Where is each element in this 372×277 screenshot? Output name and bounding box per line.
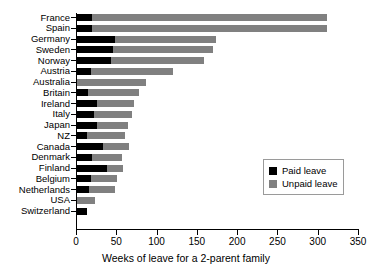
legend-item-paid-leave: Paid leave	[269, 164, 337, 177]
y-axis-tick	[71, 125, 76, 126]
bar-segment-paid	[76, 175, 91, 182]
bar-segment-paid	[76, 100, 97, 107]
bar-segment-unpaid	[97, 100, 134, 107]
y-axis-tick	[71, 92, 76, 93]
x-axis-tick-label: 150	[177, 236, 217, 248]
bar-row	[76, 25, 358, 32]
x-axis-line	[76, 229, 359, 230]
plot-area	[76, 13, 358, 229]
y-axis-tick	[71, 178, 76, 179]
bar-row	[76, 46, 358, 53]
bar-row	[76, 57, 358, 64]
y-axis-label: NZ	[0, 131, 70, 142]
y-axis-tick	[71, 146, 76, 147]
bar-segment-paid	[76, 165, 107, 172]
bar-row	[76, 100, 358, 107]
bar-segment-paid	[76, 57, 111, 64]
bar-segment-unpaid	[111, 57, 204, 64]
legend-item-unpaid-leave: Unpaid leave	[269, 177, 337, 190]
bar-segment-paid	[76, 143, 103, 150]
bar-segment-unpaid	[76, 197, 95, 204]
bar-segment-paid	[76, 46, 113, 53]
bar-row	[76, 36, 358, 43]
bar-segment-unpaid	[89, 186, 116, 193]
bar-segment-paid	[76, 186, 89, 193]
y-axis-tick	[71, 211, 76, 212]
bar-segment-unpaid	[115, 36, 217, 43]
y-axis-tick	[71, 189, 76, 190]
bar-segment-unpaid	[92, 25, 326, 32]
bar-segment-paid	[76, 111, 94, 118]
bar-segment-unpaid	[107, 165, 123, 172]
y-axis-tick	[71, 103, 76, 104]
bar-segment-paid	[76, 89, 88, 96]
bar-segment-paid	[76, 208, 87, 215]
legend-label-paid: Paid leave	[282, 165, 326, 176]
bar-row	[76, 111, 358, 118]
x-axis-tick-label: 50	[96, 236, 136, 248]
x-axis-tick-label: 350	[338, 236, 372, 248]
x-axis-tick-label: 0	[56, 236, 96, 248]
y-axis-tick	[71, 135, 76, 136]
y-axis-line	[76, 13, 77, 230]
y-axis-tick	[71, 49, 76, 50]
bar-row	[76, 143, 358, 150]
x-axis-tick	[157, 230, 158, 235]
bar-row	[76, 89, 358, 96]
bar-segment-unpaid	[103, 143, 130, 150]
bar-segment-unpaid	[76, 79, 146, 86]
y-axis-tick	[71, 200, 76, 201]
x-axis-tick	[116, 230, 117, 235]
y-axis-category-labels: FranceSpainGermanySwedenNorwayAustriaAus…	[0, 13, 70, 229]
bar-segment-paid	[76, 122, 97, 129]
bar-row	[76, 132, 358, 139]
y-axis-tick	[71, 82, 76, 83]
bar-segment-unpaid	[113, 46, 213, 53]
bar-segment-unpaid	[88, 89, 139, 96]
x-axis-tick-label: 300	[298, 236, 338, 248]
y-axis-label: Belgium	[0, 174, 70, 185]
x-axis-tick-label: 100	[137, 236, 177, 248]
x-axis-tick	[197, 230, 198, 235]
y-axis-tick	[71, 157, 76, 158]
legend-label-unpaid: Unpaid leave	[282, 178, 337, 189]
bar-row	[76, 197, 358, 204]
y-axis-label: Britain	[0, 88, 70, 99]
y-axis-label: Switzerland	[0, 206, 70, 217]
bar-segment-unpaid	[87, 132, 125, 139]
y-axis-tick	[71, 114, 76, 115]
y-axis-label: Sweden	[0, 45, 70, 56]
x-axis-title: Weeks of leave for a 2-parent family	[0, 252, 372, 264]
legend-swatch-unpaid-icon	[269, 180, 277, 188]
bar-row	[76, 68, 358, 75]
y-axis-tick	[71, 39, 76, 40]
chart-legend: Paid leave Unpaid leave	[263, 159, 344, 195]
bar-row	[76, 122, 358, 129]
y-axis-tick	[71, 168, 76, 169]
bar-segment-paid	[76, 36, 115, 43]
bar-segment-paid	[76, 14, 92, 21]
y-axis-tick	[71, 28, 76, 29]
bar-segment-paid	[76, 132, 87, 139]
x-axis-tick-label: 200	[217, 236, 257, 248]
x-axis-tick	[277, 230, 278, 235]
bar-segment-unpaid	[97, 122, 128, 129]
x-axis-tick	[358, 230, 359, 235]
stacked-bar-chart: FranceSpainGermanySwedenNorwayAustriaAus…	[0, 0, 372, 277]
bar-segment-unpaid	[92, 154, 122, 161]
y-axis-tick	[71, 71, 76, 72]
legend-swatch-paid-icon	[269, 167, 277, 175]
bar-segment-unpaid	[92, 14, 326, 21]
bar-segment-unpaid	[91, 68, 174, 75]
bar-row	[76, 14, 358, 21]
bar-segment-paid	[76, 154, 92, 161]
bar-segment-paid	[76, 68, 91, 75]
x-axis-tick	[318, 230, 319, 235]
bar-segment-paid	[76, 25, 92, 32]
y-axis-tick	[71, 60, 76, 61]
bar-segment-unpaid	[91, 175, 117, 182]
bar-row	[76, 208, 358, 215]
bar-row	[76, 79, 358, 86]
x-axis-tick	[237, 230, 238, 235]
x-axis-tick	[76, 230, 77, 235]
